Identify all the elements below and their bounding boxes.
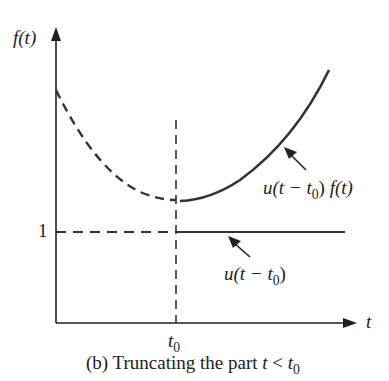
step-pointer-arrowhead-icon xyxy=(228,236,241,248)
y-tick-one: 1 xyxy=(38,220,48,242)
product-pointer-line xyxy=(290,154,306,170)
step-pointer-line xyxy=(234,243,250,257)
product-annotation-label: u(t − t0) f(t) xyxy=(263,177,353,203)
figure-caption: (b) Truncating the part t < t0 xyxy=(86,352,300,378)
product-pointer-arrowhead-icon xyxy=(284,147,297,159)
y-axis-label-arg: (t) xyxy=(18,27,36,48)
y-axis-arrowhead-icon xyxy=(51,27,61,41)
y-axis-label: f(t) xyxy=(13,27,36,49)
x-axis-arrowhead-icon xyxy=(343,318,357,328)
step-annotation-label: u(t − t0) xyxy=(224,263,286,289)
x-axis-label: t xyxy=(366,311,371,333)
truncated-f-curve xyxy=(56,90,176,200)
